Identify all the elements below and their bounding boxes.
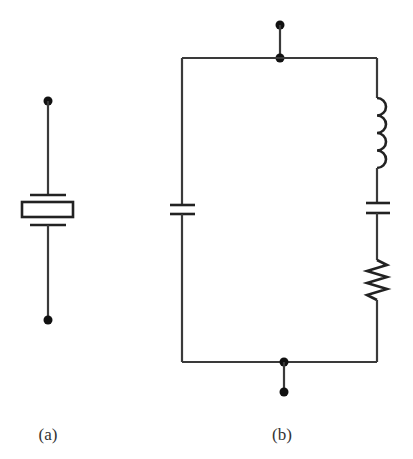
resistor-icon — [367, 260, 387, 300]
crystal-element — [22, 202, 73, 217]
series-capacitor — [366, 203, 390, 213]
terminal-bottom-a — [44, 316, 53, 325]
crystal-symbol — [22, 97, 73, 325]
panel-a-label: (a) — [39, 425, 58, 445]
inductor-icon — [377, 98, 386, 168]
shunt-capacitor — [170, 58, 195, 362]
equivalent-circuit — [170, 21, 390, 397]
circuit-figure: (a) (b) — [0, 0, 413, 459]
panel-b-label: (b) — [272, 425, 292, 445]
terminal-bottom-b — [280, 388, 289, 397]
